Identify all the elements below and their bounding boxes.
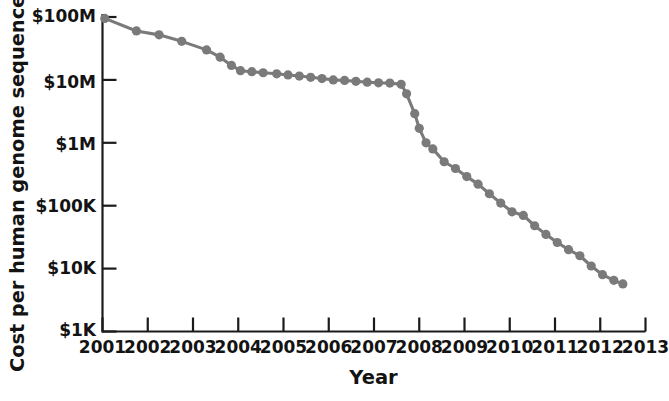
data-point-marker [440,157,449,166]
data-point-marker [385,78,394,87]
x-tick-label: 2005 [260,337,307,357]
data-point-marker [363,78,372,87]
data-point-marker [283,70,292,79]
x-tick-label: 2013 [622,337,669,357]
x-tick-label: 2008 [396,337,443,357]
x-tick-label: 2001 [79,337,126,357]
data-point-marker [247,67,256,76]
data-point-marker [598,270,607,279]
data-point-marker [216,53,225,62]
data-point-marker [351,77,360,86]
data-point-marker [154,30,163,39]
data-point-marker [236,66,245,75]
series-markers [100,14,627,289]
data-point-marker [485,189,494,198]
data-point-marker [507,207,516,216]
x-tick-label: 2003 [169,337,216,357]
data-point-marker [397,80,406,89]
x-tick-label: 2006 [305,337,352,357]
y-axis-ticks [103,17,117,332]
x-tick-label: 2011 [531,337,578,357]
data-point-marker [618,279,627,288]
x-tick-label: 2012 [577,337,624,357]
x-tick-label: 2007 [350,337,397,357]
x-tick-label: 2004 [215,337,262,357]
data-point-marker [473,180,482,189]
data-point-marker [227,61,236,70]
data-point-marker [496,199,505,208]
data-point-marker [132,26,141,35]
data-point-marker [317,74,326,83]
data-point-marker [402,89,411,98]
data-point-marker [575,251,584,260]
data-point-marker [340,76,349,85]
x-axis-title: Year [102,366,645,389]
data-point-marker [462,172,471,181]
data-point-marker [410,109,419,118]
data-point-marker [530,221,539,230]
x-axis-ticks [103,318,646,332]
data-point-marker [177,37,186,46]
data-point-marker [202,45,211,54]
x-tick-label: 2010 [486,337,533,357]
data-point-marker [100,14,109,23]
data-point-marker [259,68,268,77]
data-point-marker [428,144,437,153]
data-point-marker [541,230,550,239]
data-point-marker [519,211,528,220]
data-point-marker [415,124,424,133]
series-line [105,18,623,284]
data-point-marker [374,78,383,87]
data-point-marker [564,245,573,254]
data-point-marker [553,238,562,247]
x-tick-label: 2002 [124,337,171,357]
data-point-marker [306,73,315,82]
data-point-marker [451,164,460,173]
data-point-marker [609,276,618,285]
x-tick-label: 2009 [441,337,488,357]
data-point-marker [295,71,304,80]
data-point-marker [587,261,596,270]
axis-lines [102,14,646,333]
data-point-marker [329,75,338,84]
data-point-marker [272,69,281,78]
